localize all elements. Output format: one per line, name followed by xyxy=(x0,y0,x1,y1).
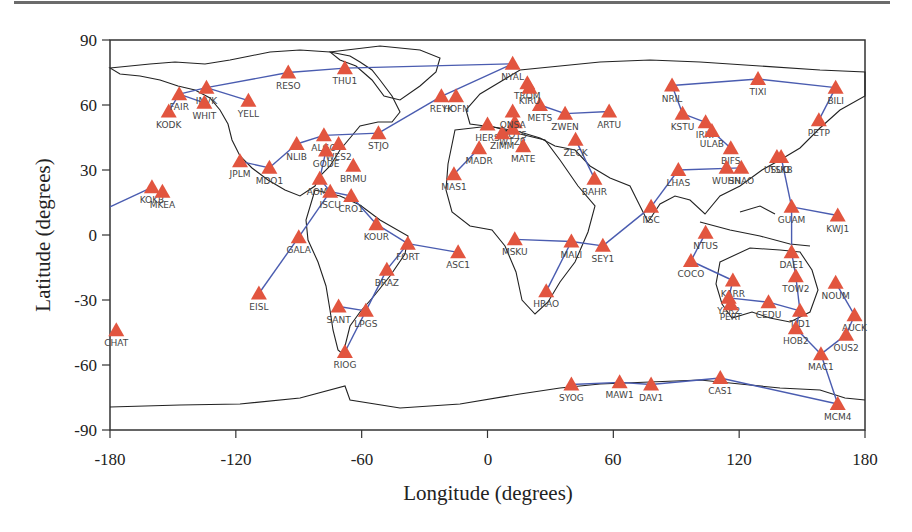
y-tick-m60: -60 xyxy=(74,356,97,375)
station-label: MSKU xyxy=(502,247,528,257)
station-label: FORT xyxy=(396,252,420,262)
station-label: CHAT xyxy=(104,338,129,348)
station-label: ARTU xyxy=(597,120,621,130)
station-label: FAIR xyxy=(169,102,188,112)
station-label: JPLM xyxy=(229,169,251,179)
station-label: OUS2 xyxy=(834,343,859,353)
station-label: KSTU xyxy=(671,122,695,132)
station-label: BAHR xyxy=(582,187,607,197)
station-label: MCM4 xyxy=(824,412,852,422)
station-label: GUAM xyxy=(778,215,805,225)
station-label: THU1 xyxy=(332,76,358,86)
x-tick-0: 0 xyxy=(484,450,493,469)
station-label: ZECK xyxy=(564,148,589,158)
station-label: SEY1 xyxy=(592,254,615,264)
station-label: COCO xyxy=(678,269,705,279)
station-label: LPGS xyxy=(354,319,377,329)
station-label: NTUS xyxy=(693,241,718,251)
x-tick-60: 60 xyxy=(605,450,622,469)
station-label: GODE xyxy=(313,159,340,169)
station-label: STJO xyxy=(368,141,389,151)
station-label: CAS1 xyxy=(708,386,732,396)
station-label: NOUM xyxy=(822,291,850,301)
station-label: HRAO xyxy=(533,299,559,309)
station-label: IISC xyxy=(642,215,659,225)
x-tick-120: 120 xyxy=(726,450,752,469)
station-label: USUD xyxy=(764,165,790,175)
station-label: BILI xyxy=(827,96,844,106)
y-tick-m30: -30 xyxy=(74,291,97,310)
station-label: SYOG xyxy=(559,393,584,403)
station-label: RESO xyxy=(276,81,301,91)
station-label: NLIB xyxy=(286,152,307,162)
station-label: GALA xyxy=(286,245,311,255)
station-label: HOB2 xyxy=(783,336,809,346)
station-label: BRAZ xyxy=(375,278,399,288)
station-label: KODK xyxy=(156,120,182,130)
station-label: PERT xyxy=(720,312,743,322)
station-label: KWJ1 xyxy=(826,224,849,234)
station-label: TIXI xyxy=(749,87,767,97)
station-label: KARR xyxy=(721,289,745,299)
station-label: MKEA xyxy=(150,200,176,210)
x-tick-m60: -60 xyxy=(351,450,374,469)
station-label: METS xyxy=(528,113,553,123)
station-label: TOW2 xyxy=(781,284,809,294)
plot-frame xyxy=(110,40,865,430)
station-label: DAE1 xyxy=(779,260,803,270)
y-tick-90: 90 xyxy=(80,31,97,50)
station-label: MADR xyxy=(466,156,493,166)
station-label: MDO1 xyxy=(256,176,284,186)
station-label: RIOG xyxy=(333,360,356,370)
station-label: HOFN xyxy=(443,104,469,114)
x-axis-title: Longitude (degrees) xyxy=(403,481,573,505)
station-label: ISCU xyxy=(320,200,341,210)
station-label: DAV1 xyxy=(639,393,663,403)
y-tick-30: 30 xyxy=(80,161,97,180)
x-tick-m180: -180 xyxy=(94,450,125,469)
station-label: NYAL xyxy=(501,72,524,82)
station-label: MATE xyxy=(511,154,536,164)
station-label: PETP xyxy=(808,128,831,138)
station-label: ONSA xyxy=(500,120,527,130)
x-tick-m120: -120 xyxy=(220,450,251,469)
station-label: NRIL xyxy=(662,94,683,104)
station-label: MAC1 xyxy=(808,362,834,372)
station-label: WHIT xyxy=(192,111,216,121)
gnss-station-map: KODKFAIRINVKWHITYELLRESOTHU1NYALREYKHOFN… xyxy=(0,0,912,532)
station-label: LHAS xyxy=(667,178,691,188)
station-label: ASC1 xyxy=(446,260,470,270)
station-label: EISL xyxy=(249,302,268,312)
station-label: BRMU xyxy=(340,174,367,184)
station-label: KOUR xyxy=(364,232,389,242)
station-label: KIRU xyxy=(519,96,540,106)
station-label: ULAB xyxy=(700,139,724,149)
station-label: SHAO xyxy=(728,176,754,186)
station-label: SANT xyxy=(326,315,351,325)
y-tick-m90: -90 xyxy=(74,421,97,440)
x-tick-labels: -180 -120 -60 0 60 120 180 xyxy=(94,450,877,469)
station-label: ZWEN xyxy=(551,122,578,132)
x-tick-180: 180 xyxy=(852,450,878,469)
y-tick-labels: 90 60 30 0 -30 -60 -90 xyxy=(74,31,97,440)
y-tick-0: 0 xyxy=(89,226,98,245)
station-label: CEDU xyxy=(756,310,782,320)
station-label: MALI xyxy=(561,250,583,260)
station-label: MAS1 xyxy=(441,182,466,192)
station-label: ZIMM xyxy=(490,141,514,151)
station-label: CRO1 xyxy=(339,204,364,214)
station-label: MAW1 xyxy=(606,390,634,400)
y-tick-60: 60 xyxy=(80,96,97,115)
y-axis-title: Latitude (degrees) xyxy=(31,158,55,311)
station-label: YELL xyxy=(237,109,259,119)
